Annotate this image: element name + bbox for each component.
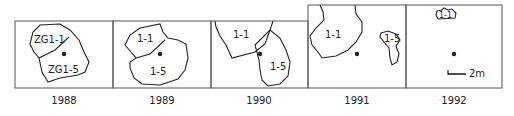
year-label-1991: 1991 xyxy=(344,95,369,106)
year-label-1989: 1989 xyxy=(149,95,174,106)
panel-1990 xyxy=(215,21,290,86)
center-point xyxy=(158,52,162,56)
label-1-1: 1-1 xyxy=(439,11,452,20)
year-label-1992: 1992 xyxy=(441,95,466,106)
label-1-1: 1-1 xyxy=(137,33,153,44)
label-zg1-5: ZG1-5 xyxy=(48,64,79,75)
label-1-5: 1-5 xyxy=(384,33,400,44)
panel-frame-1991 xyxy=(308,5,406,88)
label-1-5: 1-5 xyxy=(150,66,166,77)
label-1-5: 1-5 xyxy=(270,61,286,72)
center-point xyxy=(452,52,456,56)
year-label-1988: 1988 xyxy=(51,95,76,106)
center-point xyxy=(355,52,359,56)
label-1-1: 1-1 xyxy=(325,29,341,40)
panel-frame-1992 xyxy=(406,5,502,88)
label-1-1: 1-1 xyxy=(233,29,249,40)
label-zg1-1: ZG1-1 xyxy=(34,34,65,45)
center-point xyxy=(258,52,262,56)
colony-map-diagram: ZG1-1 ZG1-5 1-1 1-5 1-1 1-5 1-1 1-5 1-1 … xyxy=(0,0,514,116)
scale-bar-label: 2m xyxy=(469,68,485,79)
year-label-1990: 1990 xyxy=(246,95,271,106)
center-point xyxy=(62,52,66,56)
